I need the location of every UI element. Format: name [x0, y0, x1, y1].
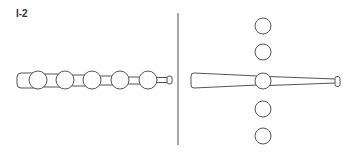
ball — [255, 73, 271, 89]
ball — [255, 128, 271, 144]
ball — [139, 71, 157, 89]
bat-knob — [167, 76, 172, 84]
ball — [255, 18, 271, 34]
bat-barrel — [191, 73, 258, 88]
ball — [83, 71, 101, 89]
ball — [255, 44, 271, 60]
bat-handle — [268, 77, 336, 86]
ball — [29, 71, 47, 89]
diagram-canvas — [0, 0, 354, 159]
ball — [255, 101, 271, 117]
ball — [111, 71, 129, 89]
bat-knob — [335, 77, 340, 87]
ball — [56, 71, 74, 89]
right-bat-with-balls — [191, 18, 340, 144]
left-bat-with-balls — [17, 71, 172, 89]
